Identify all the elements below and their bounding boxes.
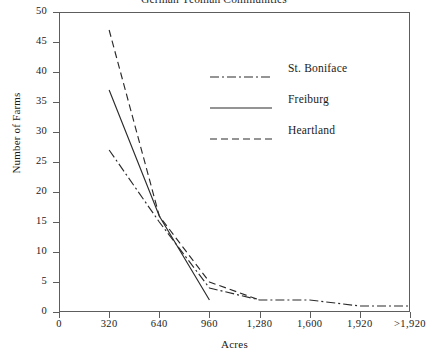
legend: St. BonifaceFreiburgHeartland — [210, 62, 400, 155]
y-tick-label: 30 — [17, 125, 47, 136]
y-tick-mark — [53, 42, 59, 43]
legend-swatch-dash-dot — [210, 68, 272, 78]
y-tick-label: 5 — [17, 275, 47, 286]
legend-label: St. Boniface — [288, 62, 347, 74]
y-tick-label: 0 — [17, 305, 47, 316]
series-line-freiburg — [109, 90, 209, 300]
y-tick-label: 50 — [17, 5, 47, 16]
y-tick-label: 40 — [17, 65, 47, 76]
plot-lines-svg — [59, 12, 410, 312]
legend-row: Heartland — [210, 124, 400, 155]
y-tick-label: 45 — [17, 35, 47, 46]
legend-row: Freiburg — [210, 93, 400, 124]
y-tick-label: 25 — [17, 155, 47, 166]
y-tick-mark — [53, 282, 59, 283]
y-tick-mark — [53, 222, 59, 223]
x-tick-label: >1,920 — [380, 318, 428, 329]
chart-title: German Yeoman Communities — [0, 0, 428, 5]
chart-figure: German Yeoman Communities Number of Farm… — [0, 0, 428, 355]
y-tick-mark — [53, 162, 59, 163]
y-tick-mark — [53, 72, 59, 73]
y-tick-mark — [53, 192, 59, 193]
legend-swatch-dashed — [210, 130, 272, 140]
y-tick-mark — [53, 132, 59, 133]
y-tick-mark — [53, 252, 59, 253]
y-tick-label: 10 — [17, 245, 47, 256]
y-tick-mark — [53, 12, 59, 13]
y-tick-label: 20 — [17, 185, 47, 196]
y-tick-mark — [53, 102, 59, 103]
x-axis-title: Acres — [59, 338, 410, 350]
series-line-st-boniface — [109, 150, 410, 306]
legend-swatch-solid — [210, 99, 272, 109]
y-tick-label: 15 — [17, 215, 47, 226]
legend-row: St. Boniface — [210, 62, 400, 93]
legend-label: Freiburg — [288, 93, 329, 105]
legend-label: Heartland — [288, 124, 335, 136]
y-tick-label: 35 — [17, 95, 47, 106]
